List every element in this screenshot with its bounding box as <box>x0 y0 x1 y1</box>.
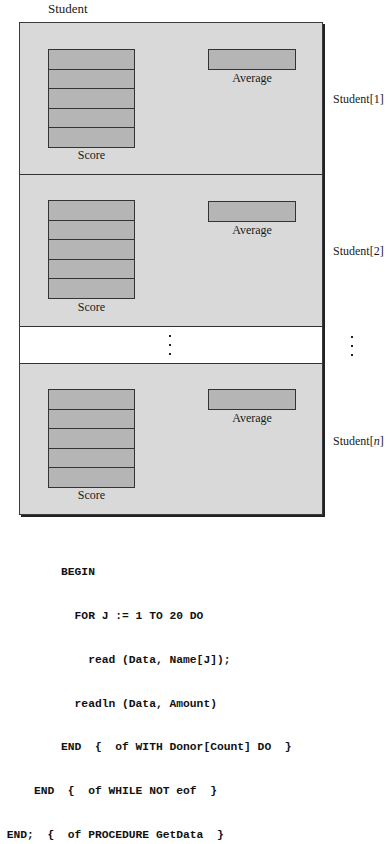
vertical-ellipsis-icon <box>169 335 173 362</box>
record-label-n: Student[n] <box>333 434 384 449</box>
average-field-1 <box>208 49 296 70</box>
code-line: END { of WHILE NOT eof } <box>0 784 292 799</box>
ellipsis-gap <box>20 327 322 364</box>
score-cell <box>49 390 134 410</box>
score-cell <box>49 429 134 449</box>
score-cell <box>49 410 134 430</box>
score-array-n <box>48 389 135 488</box>
score-cell <box>49 89 134 109</box>
score-cell <box>49 221 134 241</box>
record-label-1: Student[1] <box>333 92 384 107</box>
code-line: FOR J := 1 TO 20 DO <box>0 609 292 624</box>
score-cell <box>49 279 134 298</box>
student-record-2: Score Average <box>20 175 322 327</box>
diagram-title: Student <box>48 1 88 17</box>
average-label-2: Average <box>208 223 296 238</box>
code-line: read (Data, Name[J]); <box>0 653 292 668</box>
average-label-1: Average <box>208 71 296 86</box>
record-label-2: Student[2] <box>333 244 384 259</box>
average-label-n: Average <box>208 411 296 426</box>
score-array-2 <box>48 200 135 299</box>
score-label-2: Score <box>48 300 135 315</box>
score-cell <box>49 201 134 221</box>
score-cell <box>49 128 134 147</box>
score-cell <box>49 449 134 469</box>
student-array-frame: Score Average Score Average Score <box>19 22 323 515</box>
score-cell <box>49 109 134 129</box>
code-line: END { of WITH Donor[Count] DO } <box>0 740 292 755</box>
student-record-n: Score Average <box>20 364 322 514</box>
score-label-1: Score <box>48 148 135 163</box>
code-listing: BEGIN FOR J := 1 TO 20 DO read (Data, Na… <box>0 536 292 844</box>
code-line: END; { of PROCEDURE GetData } <box>0 828 292 843</box>
right-vertical-ellipsis-icon <box>351 336 355 363</box>
score-cell <box>49 70 134 90</box>
score-cell <box>49 50 134 70</box>
score-cell <box>49 260 134 280</box>
score-array-1 <box>48 49 135 148</box>
student-record-1: Score Average <box>20 23 322 175</box>
average-field-n <box>208 389 296 410</box>
code-line: readln (Data, Amount) <box>0 697 292 712</box>
score-cell <box>49 240 134 260</box>
code-line: BEGIN <box>0 565 292 580</box>
score-cell <box>49 468 134 487</box>
average-field-2 <box>208 201 296 222</box>
score-label-n: Score <box>48 488 135 503</box>
